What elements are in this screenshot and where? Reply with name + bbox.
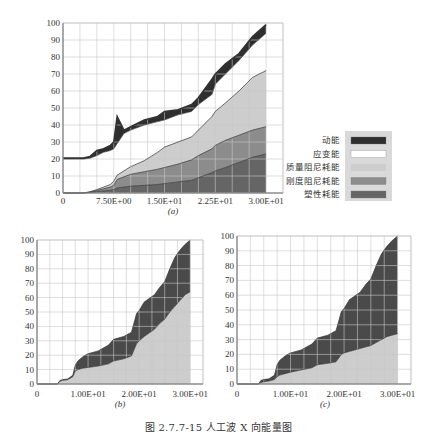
- legend-swatch-stiffness_damping: [351, 178, 386, 185]
- y-tick-label: 40: [51, 120, 61, 130]
- legend-label-stiffness_damping: 刚度阻尼耗能: [286, 176, 340, 186]
- chart-b-energy-stack: 010203040506070809010001.00E+012.00E+013…: [21, 235, 208, 409]
- y-tick-label: 10: [51, 171, 61, 181]
- y-tick-label: 60: [25, 293, 35, 303]
- x-tick-label: 0: [235, 389, 240, 399]
- y-tick-label: 60: [51, 86, 61, 96]
- y-tick-label: 50: [225, 305, 235, 315]
- x-tick-label: 2.00E+01: [121, 389, 156, 399]
- y-tick-label: 90: [225, 246, 235, 256]
- y-tick-label: 50: [51, 103, 61, 113]
- y-tick-label: 50: [25, 307, 35, 317]
- x-tick-label: 3.00E+01: [248, 196, 283, 206]
- y-tick-label: 30: [25, 336, 35, 346]
- y-tick-label: 0: [56, 188, 61, 198]
- legend-swatch-kinetic: [351, 137, 386, 144]
- subfigure-label: (b): [115, 399, 126, 409]
- y-tick-label: 90: [51, 35, 61, 45]
- y-tick-label: 20: [225, 349, 235, 359]
- y-tick-label: 70: [51, 69, 61, 79]
- y-tick-label: 0: [30, 379, 35, 389]
- subfigure-label: (a): [168, 206, 179, 216]
- legend-label-kinetic: 动能: [322, 135, 340, 145]
- y-tick-label: 70: [225, 275, 235, 285]
- legend-swatch-plastic: [351, 191, 386, 198]
- x-tick-label: 0: [61, 196, 66, 206]
- y-tick-label: 30: [51, 137, 61, 147]
- x-tick-label: 1.50E+01: [147, 196, 182, 206]
- y-tick-label: 40: [25, 321, 35, 331]
- y-tick-label: 100: [21, 235, 35, 245]
- figure-caption: 图 2.7.7-15 人工波 X 向能量图: [0, 419, 437, 434]
- y-tick-label: 70: [25, 278, 35, 288]
- x-tick-label: 0: [35, 389, 40, 399]
- y-tick-label: 10: [225, 364, 235, 374]
- legend-label-strain: 应变能: [313, 149, 340, 159]
- y-tick-label: 0: [230, 379, 235, 389]
- y-tick-label: 100: [221, 231, 235, 241]
- y-tick-label: 80: [25, 264, 35, 274]
- y-tick-label: 40: [225, 320, 235, 330]
- x-tick-label: 1.00E+01: [70, 389, 105, 399]
- y-tick-label: 20: [25, 350, 35, 360]
- energy-figure: 010203040506070809010007.50E+001.50E+012…: [0, 0, 437, 437]
- x-tick-label: 3.00E+01: [173, 389, 208, 399]
- y-tick-label: 80: [225, 261, 235, 271]
- chart-c-energy-stack: 010203040506070809010001.00E+012.00E+013…: [221, 231, 416, 409]
- y-tick-label: 100: [47, 18, 61, 28]
- y-tick-label: 30: [225, 335, 235, 345]
- y-tick-label: 20: [51, 154, 61, 164]
- chart-a-energy-stack: 010203040506070809010007.50E+001.50E+012…: [47, 18, 284, 216]
- legend-label-plastic: 塑性耗能: [304, 189, 340, 199]
- y-tick-label: 60: [225, 290, 235, 300]
- x-tick-label: 7.50E+00: [96, 196, 132, 206]
- y-tick-label: 10: [25, 365, 35, 375]
- x-tick-label: 2.25E+01: [198, 196, 233, 206]
- legend: 动能应变能质量阻尼耗能刚度阻尼耗能塑性耗能: [286, 131, 392, 201]
- legend-swatch-strain: [351, 151, 386, 158]
- legend-swatch-mass_damping: [351, 164, 386, 171]
- y-tick-label: 80: [51, 52, 61, 62]
- legend-label-mass_damping: 质量阻尼耗能: [286, 162, 340, 172]
- y-tick-label: 90: [25, 249, 35, 259]
- x-tick-label: 3.00E+01: [380, 389, 415, 399]
- x-tick-label: 2.00E+01: [326, 389, 361, 399]
- x-tick-label: 1.00E+01: [273, 389, 308, 399]
- subfigure-label: (c): [320, 399, 330, 409]
